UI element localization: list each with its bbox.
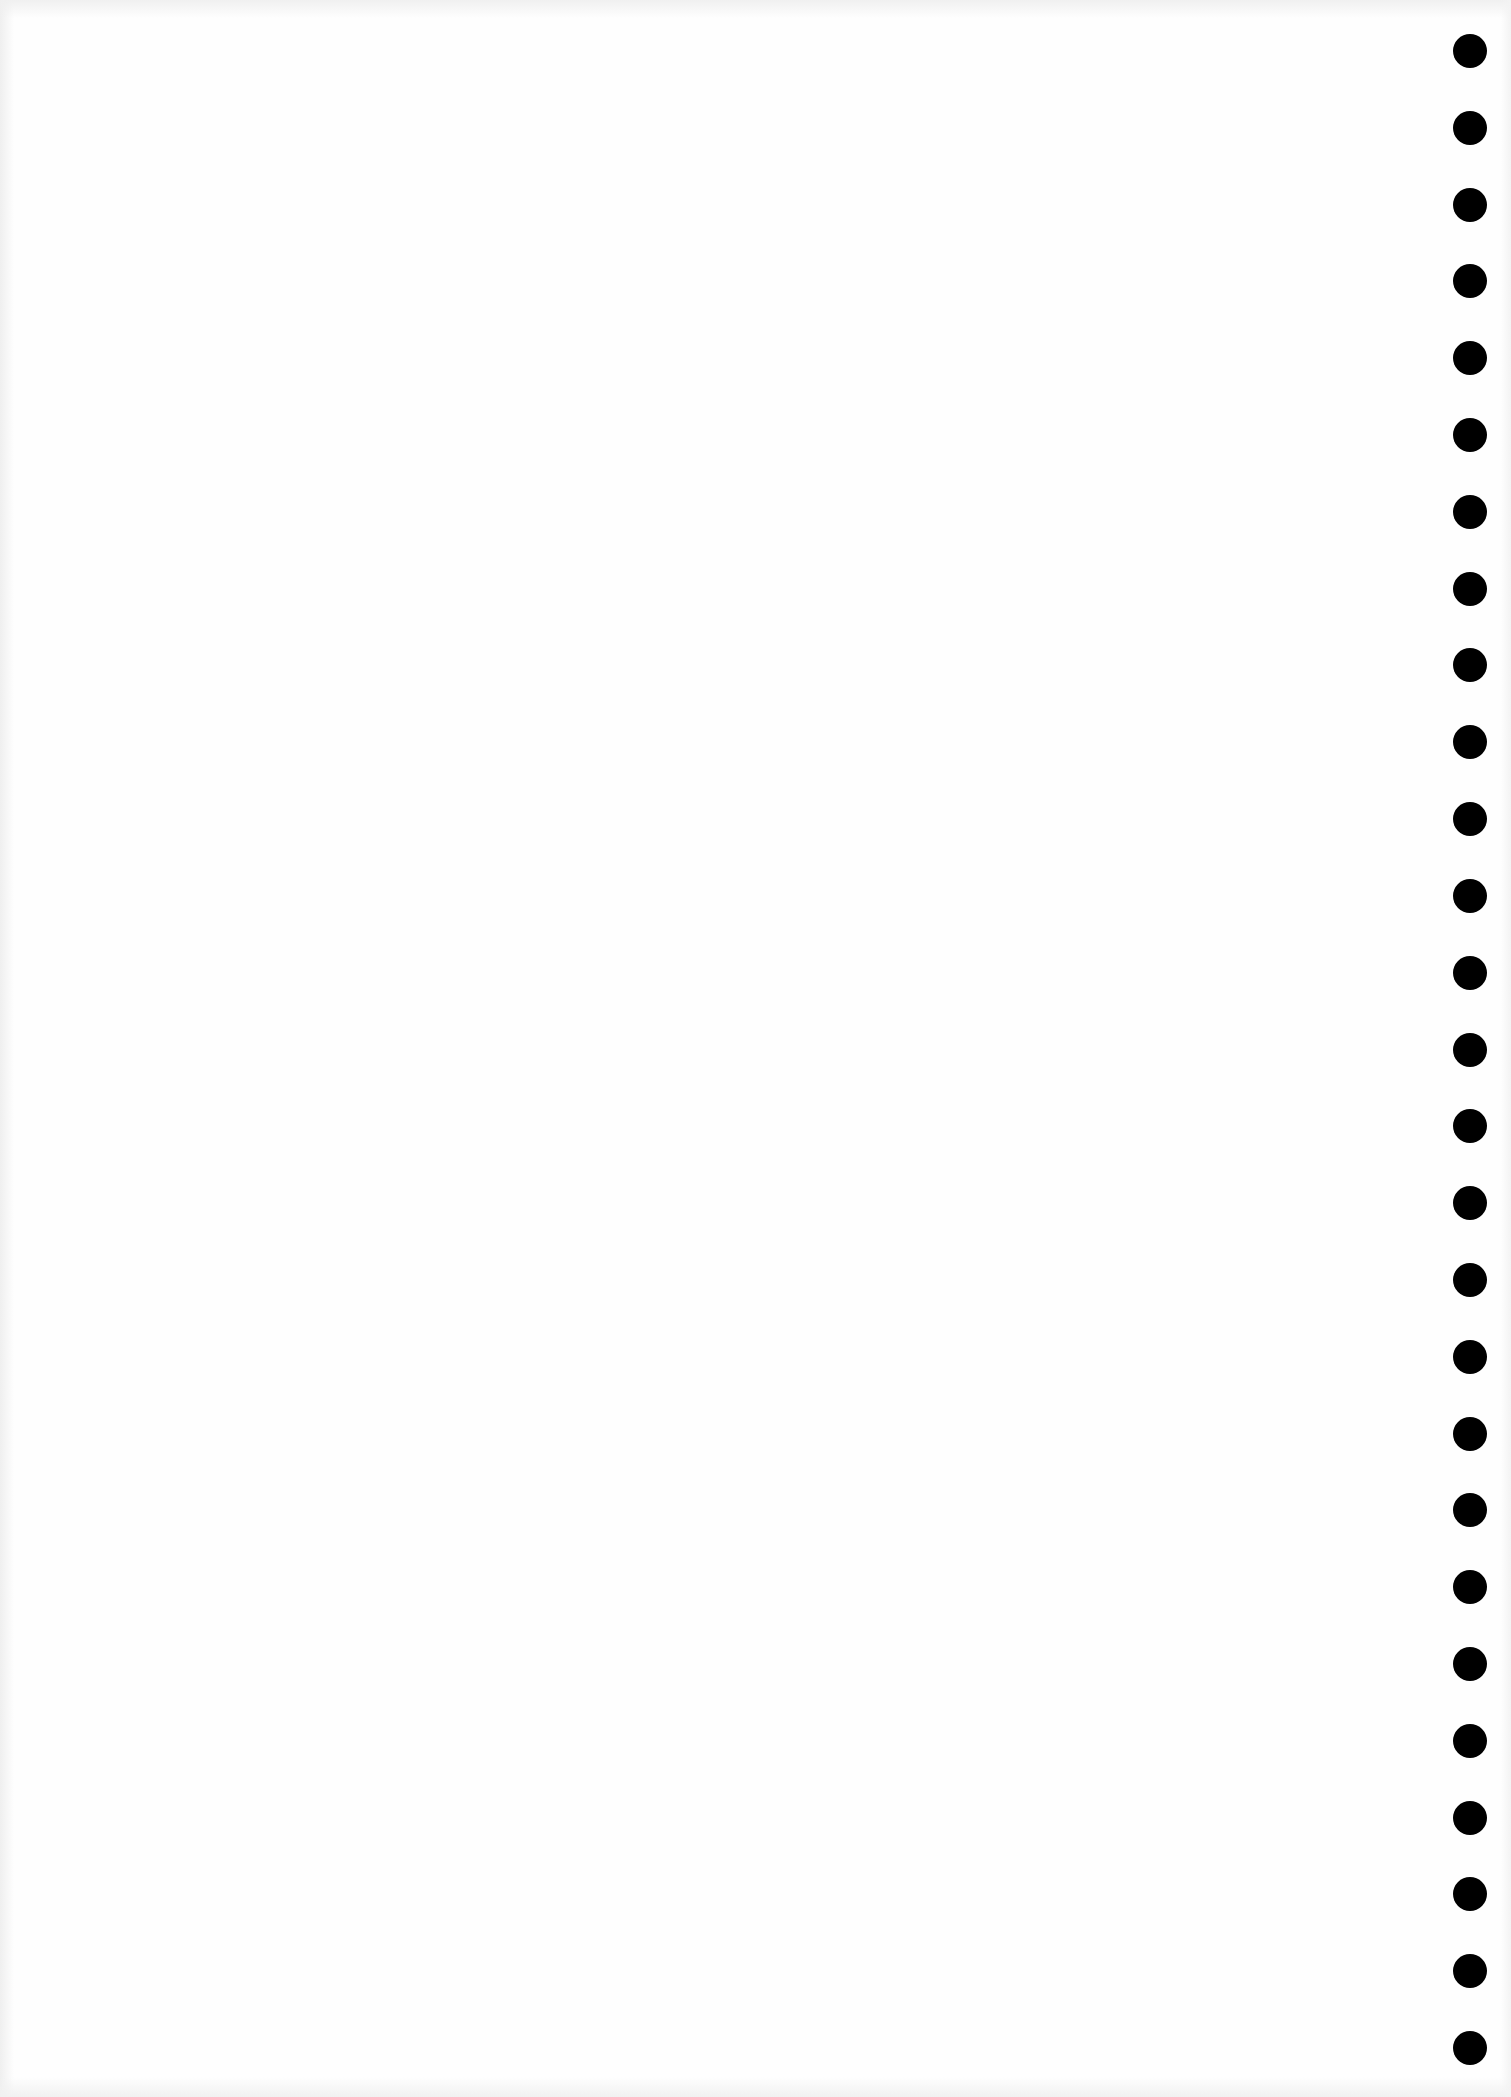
binding-hole-icon: [1453, 1417, 1487, 1451]
binding-hole-icon: [1453, 2031, 1487, 2065]
binding-hole-icon: [1453, 1033, 1487, 1067]
binding-hole-icon: [1453, 1340, 1487, 1374]
binding-hole-icon: [1453, 34, 1487, 68]
binding-hole-icon: [1453, 111, 1487, 145]
binding-hole-icon: [1453, 1954, 1487, 1988]
binding-hole-icon: [1453, 725, 1487, 759]
binding-hole-icon: [1453, 418, 1487, 452]
binding-hole-icon: [1453, 1186, 1487, 1220]
binding-hole-icon: [1453, 1493, 1487, 1527]
binding-hole-icon: [1453, 188, 1487, 222]
binding-hole-icon: [1453, 495, 1487, 529]
binding-hole-icon: [1453, 802, 1487, 836]
binding-hole-icon: [1453, 572, 1487, 606]
binding-hole-icon: [1453, 264, 1487, 298]
binding-hole-icon: [1453, 341, 1487, 375]
binding-hole-icon: [1453, 648, 1487, 682]
binding-hole-icon: [1453, 1570, 1487, 1604]
binding-hole-icon: [1453, 879, 1487, 913]
binding-hole-icon: [1453, 956, 1487, 990]
blank-page: [0, 0, 1511, 2097]
binding-hole-icon: [1453, 1263, 1487, 1297]
binding-hole-icon: [1453, 1647, 1487, 1681]
binding-hole-icon: [1453, 1877, 1487, 1911]
binding-hole-icon: [1453, 1801, 1487, 1835]
binding-hole-icon: [1453, 1724, 1487, 1758]
binding-hole-icon: [1453, 1109, 1487, 1143]
spiral-binding-holes: [0, 0, 1511, 2097]
